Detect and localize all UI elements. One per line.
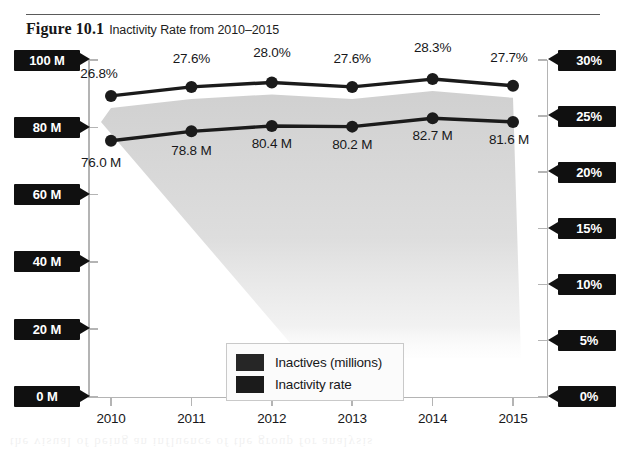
axis-label-left-0-m: 0 M <box>14 386 80 407</box>
data-label-inactivity-rate: 27.6% <box>173 51 210 66</box>
data-label-inactives: 81.6 M <box>489 132 529 147</box>
axis-label-left-40-m: 40 M <box>14 251 80 272</box>
axis-label-left-60-m: 60 M <box>14 184 80 205</box>
data-point-inactives <box>507 116 519 128</box>
axis-label-right-10-: 10% <box>558 274 616 295</box>
axis-label-right-25-: 25% <box>558 106 616 127</box>
data-point-inactivity-rate <box>105 90 117 102</box>
axis-label-x-2011: 2011 <box>177 411 205 426</box>
scan-bleed-ghost: the visual of being an influence of the … <box>10 428 608 450</box>
axis-label-x-2012: 2012 <box>257 411 286 426</box>
axis-label-x-2013: 2013 <box>338 411 367 426</box>
axis-label-left-20-m: 20 M <box>14 319 80 340</box>
data-point-inactives <box>346 121 358 133</box>
axis-label-left-80-m: 80 M <box>14 117 80 138</box>
data-point-inactivity-rate <box>427 73 439 85</box>
figure-container: Figure 10.1Inactivity Rate from 2010–201… <box>0 0 618 454</box>
data-label-inactivity-rate: 28.0% <box>253 45 290 60</box>
data-point-inactives <box>105 135 117 147</box>
axis-label-x-2010: 2010 <box>96 411 125 426</box>
line-inactivity-rate <box>111 79 513 96</box>
axis-tick-bottom <box>191 397 193 406</box>
data-label-inactivity-rate: 26.8% <box>80 66 117 81</box>
axis-tick-bottom <box>110 397 112 406</box>
legend-label-inactives: Inactives (millions) <box>275 355 382 370</box>
data-point-inactivity-rate <box>507 80 519 92</box>
data-label-inactives: 76.0 M <box>81 155 121 170</box>
data-point-inactives <box>427 112 439 124</box>
chart-legend: Inactives (millions) Inactivity rate <box>226 343 404 401</box>
axis-label-right-5-: 5% <box>558 330 616 351</box>
markers-inactivity-rate <box>105 73 519 102</box>
legend-swatch-inactives <box>236 354 264 371</box>
legend-item-inactivity-rate: Inactivity rate <box>236 373 403 395</box>
data-point-inactives <box>185 125 197 137</box>
axis-label-right-0-: 0% <box>558 386 616 407</box>
data-label-inactivity-rate: 28.3% <box>414 40 451 55</box>
axis-label-right-30-: 30% <box>558 50 616 71</box>
data-label-inactivity-rate: 27.7% <box>490 50 527 65</box>
axis-label-right-15-: 15% <box>558 218 616 239</box>
data-point-inactivity-rate <box>346 81 358 93</box>
axis-label-left-100-m: 100 M <box>14 50 80 71</box>
axis-tick-bottom <box>512 397 514 406</box>
axis-label-x-2015: 2015 <box>498 411 527 426</box>
data-label-inactivity-rate: 27.6% <box>334 51 371 66</box>
plot-area: 26.8%27.6%28.0%27.6%28.3%27.7% 76.0 M78.… <box>88 60 548 398</box>
data-point-inactivity-rate <box>266 76 278 88</box>
legend-item-inactives: Inactives (millions) <box>236 351 403 373</box>
page-title: Inactivity Rate from 2010–2015 <box>109 23 279 37</box>
figure-number: Figure 10.1 <box>26 20 104 37</box>
axis-label-x-2014: 2014 <box>418 411 447 426</box>
data-label-inactives: 80.4 M <box>252 136 292 151</box>
data-label-inactives: 80.2 M <box>332 137 372 152</box>
data-label-inactives: 82.7 M <box>413 128 453 143</box>
axis-tick-bottom <box>432 397 434 406</box>
legend-swatch-inactivity-rate <box>236 376 264 393</box>
legend-label-inactivity-rate: Inactivity rate <box>275 377 352 392</box>
figure-caption: Figure 10.1Inactivity Rate from 2010–201… <box>26 21 279 37</box>
caption-rule <box>26 14 600 15</box>
data-point-inactivity-rate <box>185 81 197 93</box>
line-inactives <box>111 118 513 141</box>
axis-label-right-20-: 20% <box>558 162 616 183</box>
data-point-inactives <box>266 120 278 132</box>
data-label-inactives: 78.8 M <box>171 143 211 158</box>
markers-inactives <box>105 112 519 147</box>
